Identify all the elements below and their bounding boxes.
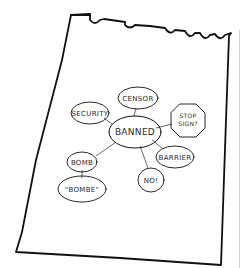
node-bomb-label: BOMB [71,159,93,167]
node-censor: CENSOR [118,87,158,109]
node-stopsign-label2: SIGN? [178,120,197,127]
node-barrier-label: BARRIER [159,154,192,162]
background-edge-line [239,30,240,268]
node-barrier: BARRIER [156,146,194,168]
connectors [82,108,172,178]
mind-map-sketch: BANNED CENSOR SECURITY STOP SIGN? BARRIE… [0,0,240,268]
edge-banned-no [140,146,148,168]
node-banned-label: BANNED [115,127,155,137]
node-no-label: NO! [144,177,158,185]
node-bombe: "BOMBE" [58,176,106,202]
node-bomb: BOMB [67,152,97,172]
node-no: NO! [138,168,164,192]
node-banned: BANNED [109,116,161,148]
edge-banned-security [104,118,112,124]
edge-banned-bomb [96,142,116,156]
node-censor-label: CENSOR [122,95,153,103]
node-security-label: SECURITY [72,110,109,118]
node-stopsign-label: STOP [179,112,196,119]
node-security: SECURITY [71,102,109,124]
node-stopsign: STOP SIGN? [171,104,205,137]
notepad-page [16,14,231,265]
node-bombe-label: "BOMBE" [65,186,99,194]
